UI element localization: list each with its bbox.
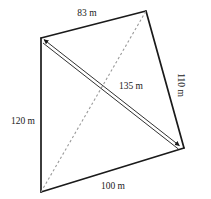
- label-top-side: 83 m: [77, 8, 97, 18]
- label-right-side: 110 m: [176, 73, 186, 97]
- quadrilateral-outline: [41, 11, 184, 192]
- geometry-figure: 83 m 110 m 100 m 120 m 135 m: [0, 0, 211, 199]
- measured-diagonal-line-lower: [43, 43, 178, 149]
- label-measured-diagonal: 135 m: [119, 81, 144, 91]
- label-left-side: 120 m: [11, 116, 36, 126]
- label-bottom-side: 100 m: [101, 181, 126, 191]
